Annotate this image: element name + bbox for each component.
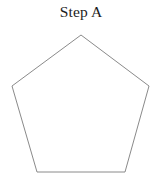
- figure-canvas: Step A: [0, 0, 162, 187]
- pentagon-shape: [12, 35, 149, 172]
- shape-layer: [0, 0, 162, 187]
